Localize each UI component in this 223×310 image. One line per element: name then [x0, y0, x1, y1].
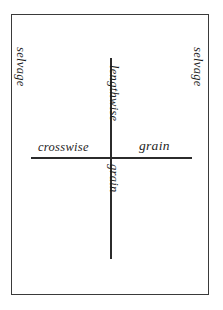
grain-label-vertical: grain	[106, 164, 121, 193]
grain-label-horizontal: grain	[139, 138, 170, 154]
selvage-label-left: selvage	[13, 47, 28, 87]
crosswise-label: crosswise	[38, 140, 89, 155]
crosswise-grain-line	[31, 157, 192, 159]
fabric-grain-diagram: selvage selvage lengthwise grain crosswi…	[0, 0, 223, 310]
lengthwise-label: lengthwise	[106, 65, 121, 121]
selvage-label-right: selvage	[190, 47, 205, 87]
